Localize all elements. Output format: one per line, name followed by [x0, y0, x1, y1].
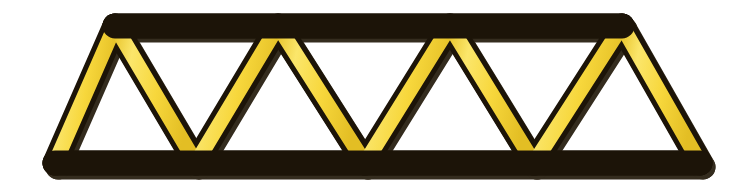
- truss-illustration: [0, 0, 738, 192]
- member-diagonal-4: [278, 26, 365, 163]
- member-diagonal-6: [450, 26, 534, 163]
- member-diagonal-8: [622, 26, 700, 163]
- member-diagonal-7: [534, 26, 622, 163]
- member-diagonal-3: [196, 26, 278, 163]
- member-diagonal-1: [55, 26, 115, 163]
- member-diagonal-5: [365, 26, 450, 163]
- member-diagonal-2: [115, 26, 196, 163]
- truss-diagram: [0, 0, 738, 192]
- truss-diagonal-fill-layer: [55, 26, 700, 163]
